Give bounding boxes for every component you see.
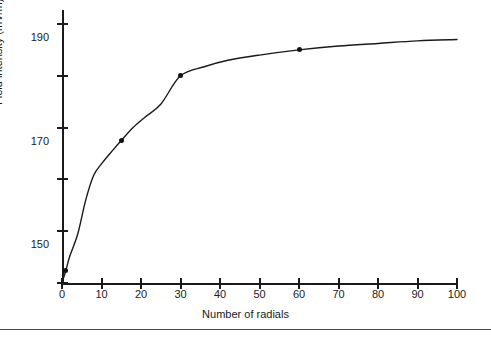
x-tick-label-0: 0 (59, 289, 65, 300)
x-tick-label-90: 90 (411, 289, 423, 300)
curve-path (62, 40, 457, 283)
y-tick-label-190: 190 (31, 32, 49, 43)
y-tick-label-170: 170 (31, 135, 49, 146)
data-point (119, 138, 124, 143)
x-axis-title: Number of radials (0, 308, 491, 320)
y-tick-label-150: 150 (31, 239, 49, 250)
x-tick-label-10: 10 (95, 289, 107, 300)
x-tick-label-30: 30 (174, 289, 186, 300)
y-axis-title: Field intensity (mV/m) (0, 0, 4, 105)
data-point (297, 47, 302, 52)
x-tick-label-50: 50 (253, 289, 265, 300)
x-tick-label-40: 40 (214, 289, 226, 300)
plot-area: 100120130150170190 010203040506070809010… (62, 10, 457, 285)
x-tick-label-20: 20 (135, 289, 147, 300)
bottom-rule (0, 329, 491, 330)
x-tick-label-80: 80 (372, 289, 384, 300)
x-tick-label-100: 100 (448, 289, 466, 300)
chart-figure: Field intensity (mV/m) 10012013015017019… (0, 0, 491, 337)
data-curve (62, 10, 457, 285)
x-tick-label-60: 60 (293, 289, 305, 300)
x-tick-label-70: 70 (332, 289, 344, 300)
